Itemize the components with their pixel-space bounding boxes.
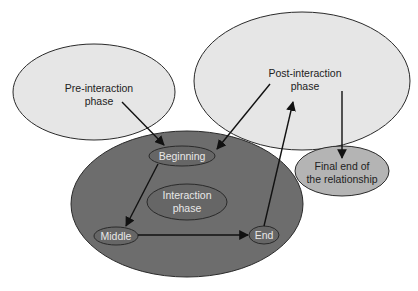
interaction-label-line1: Interaction — [162, 189, 211, 201]
post-interaction-node: Post-interaction phase — [194, 12, 410, 150]
beginning-node: Beginning — [149, 146, 215, 166]
final-end-label-line2: the relationship — [306, 173, 377, 185]
post-interaction-label-line1: Post-interaction — [269, 67, 342, 79]
final-end-label-line1: Final end of — [315, 160, 370, 172]
interaction-phase-node: Interaction phase — [147, 184, 227, 220]
beginning-label: Beginning — [159, 150, 206, 162]
interaction-label-line2: phase — [173, 202, 202, 214]
middle-label: Middle — [101, 230, 132, 242]
post-interaction-label-line2: phase — [291, 80, 320, 92]
middle-node: Middle — [94, 227, 138, 245]
end-label: End — [255, 229, 274, 241]
end-node: End — [249, 226, 279, 244]
phase-diagram: Pre-interaction phase Post-interaction p… — [0, 0, 418, 291]
pre-interaction-label-line2: phase — [85, 95, 114, 107]
pre-interaction-node: Pre-interaction phase — [13, 44, 175, 140]
pre-interaction-label-line1: Pre-interaction — [65, 82, 133, 94]
